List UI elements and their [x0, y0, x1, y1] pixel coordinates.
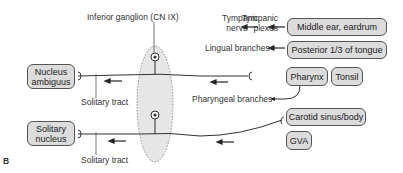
target-carotid-sinus-label: Carotid sinus/body [289, 112, 364, 122]
tympanic-plexus-label: Tympanic plexus [238, 13, 278, 33]
target-middle-ear: Middle ear, eardrum [287, 18, 387, 36]
target-middle-ear-label: Middle ear, eardrum [297, 22, 377, 32]
target-pharynx: Pharynx [286, 67, 328, 86]
target-posterior-tongue: Posterior 1/3 of tongue [287, 41, 387, 59]
solitary-nucleus-label: Solitary nucleus [28, 124, 74, 144]
solitary-tract-label-bottom: Solitary tract [81, 155, 128, 165]
nucleus-ambiguus-label: Nucleus ambiguus [28, 67, 74, 87]
target-gva: GVA [286, 131, 312, 150]
target-posterior-tongue-label: Posterior 1/3 of tongue [291, 45, 382, 55]
pharyngeal-branches-label: Pharyngeal branches [192, 94, 272, 104]
target-tonsil-label: Tonsil [335, 72, 358, 82]
solitary-tract-label-top: Solitary tract [81, 97, 128, 107]
lingual-branches-label: Lingual branches [205, 43, 270, 53]
target-pharynx-label: Pharynx [290, 72, 323, 82]
solitary-nucleus-box: Solitary nucleus [27, 121, 75, 146]
target-tonsil: Tonsil [331, 67, 363, 86]
figure-label: B [3, 156, 9, 166]
nucleus-ambiguus-box: Nucleus ambiguus [27, 64, 75, 89]
ganglion-label: Inferior ganglion (CN IX) [87, 12, 179, 22]
target-carotid-sinus: Carotid sinus/body [286, 108, 366, 126]
target-gva-label: GVA [290, 136, 308, 146]
